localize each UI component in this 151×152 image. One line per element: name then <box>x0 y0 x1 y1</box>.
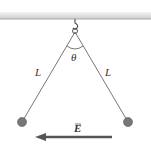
right-string <box>75 32 128 122</box>
arrow-head-icon <box>35 133 46 141</box>
right-ball <box>124 118 133 127</box>
left-string-label: L <box>35 66 41 78</box>
ceiling <box>0 12 151 19</box>
field-label: E <box>74 122 81 134</box>
left-string <box>22 32 75 122</box>
angle-label: θ <box>71 51 76 63</box>
right-string-label: L <box>105 66 111 78</box>
hook-icon <box>73 19 78 29</box>
angle-arc <box>67 46 83 49</box>
left-ball <box>18 118 27 127</box>
